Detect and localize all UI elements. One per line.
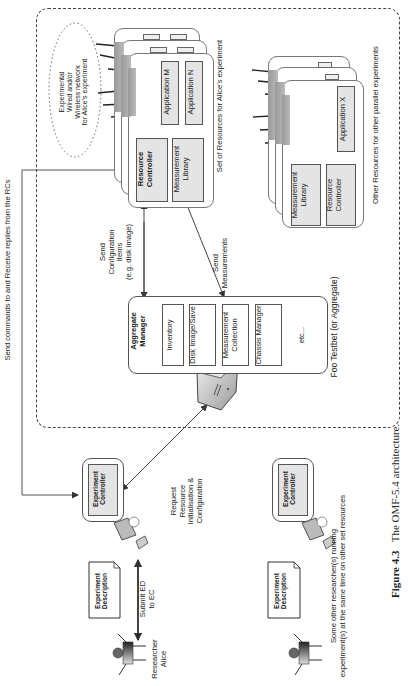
aggregate-manager-title: Aggregate Manager — [130, 306, 156, 356]
module-chassis-manager-label: Chassis Manager — [255, 304, 281, 366]
other-nic-strip — [282, 95, 290, 145]
module-disk-image-label: Disk Image/Save — [189, 304, 215, 366]
alice-card-tab — [177, 47, 194, 53]
other-resources-label: Other Resources for other parallel exper… — [372, 35, 384, 215]
measurement-library-label: Measurement Library — [173, 137, 203, 201]
network-label: Experimental Wired and/or Wireless netwo… — [58, 40, 94, 144]
aggregate-etc-label: etc... — [298, 315, 312, 355]
other-researcher-icon — [289, 634, 322, 675]
resource-controller-label: Resource Controller — [137, 137, 167, 201]
application-n-label: Application N — [187, 60, 201, 124]
request-resource-label: Request Resource Initialisation & Config… — [170, 466, 212, 536]
alice-researcher-label: Researcher Alice — [151, 636, 173, 682]
module-inventory-label: Inventory — [166, 304, 180, 366]
other-experiment-controller-label: Experiment Controller — [282, 464, 304, 514]
other-resource-controller-label: Resource Controller — [326, 164, 356, 226]
application-m-label: Application M — [163, 60, 177, 124]
send-measurements-label: Send Measurements — [212, 235, 234, 291]
submit-ed-label: Submit ED to EC — [139, 577, 161, 621]
testbed-title: Foo Testbet (or Aggregate) — [330, 262, 344, 392]
other-card-tab — [325, 74, 339, 80]
other-researchers-label: Some other researcher(s) running experim… — [330, 483, 354, 686]
send-config-label: Send Configuration Items (e.g. disk imag… — [99, 217, 143, 287]
alice-card-tab — [143, 34, 160, 40]
alice-computer-icon — [114, 517, 148, 549]
other-card-tab — [318, 62, 332, 68]
alice-nic-strip — [128, 68, 136, 116]
send-commands-label: Send commands to and Receive replies fro… — [4, 170, 16, 370]
figure-caption: Figure 4.3 The OMF-5.4 architecture. — [389, 398, 403, 598]
other-experiment-description-label: Experiment Description — [273, 567, 295, 615]
other-measurement-library-label: Measurement Library — [291, 164, 321, 226]
alice-card-tab — [170, 34, 187, 40]
application-x-label: Application X — [339, 86, 353, 152]
researcher-alice-icon — [113, 634, 146, 675]
alice-experiment-controller-label: Experiment Controller — [92, 464, 114, 514]
alice-card-tab — [150, 47, 167, 53]
alice-experiment-description-label: Experiment Description — [94, 567, 116, 615]
alice-resources-label: Set of Resources for Alice's experiment — [216, 21, 228, 191]
module-measurement-collection-label: Measurement Collection — [222, 304, 248, 366]
